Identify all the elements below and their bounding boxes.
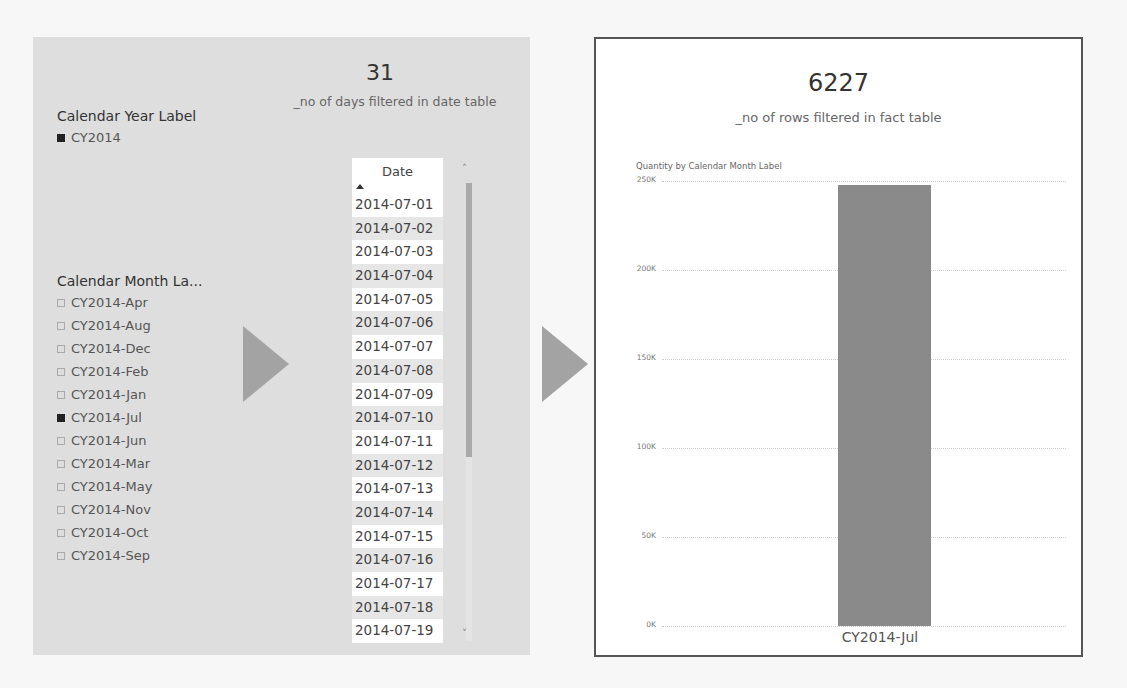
- year-slicer-title: Calendar Year Label: [57, 108, 196, 124]
- sort-ascending-icon[interactable]: [356, 184, 364, 189]
- checkbox-icon[interactable]: [57, 368, 65, 376]
- table-row[interactable]: 2014-07-05: [352, 288, 443, 312]
- table-row[interactable]: 2014-07-14: [352, 501, 443, 525]
- table-row[interactable]: 2014-07-12: [352, 454, 443, 478]
- scroll-up-icon[interactable]: ˄: [462, 163, 467, 174]
- result-panel: 6227 _no of rows filtered in fact table …: [594, 37, 1083, 657]
- table-row[interactable]: 2014-07-06: [352, 311, 443, 335]
- month-slicer-item-label: CY2014-Nov: [71, 502, 151, 517]
- bar-CY2014-Jul[interactable]: [838, 185, 931, 626]
- year-slicer-item[interactable]: CY2014: [57, 130, 121, 145]
- month-slicer-item[interactable]: CY2014-May: [57, 479, 152, 494]
- month-slicer-item-label: CY2014-May: [71, 479, 152, 494]
- rows-count-value: 6227: [596, 69, 1081, 97]
- gridline: [662, 626, 1066, 627]
- y-axis-tick-label: 100K: [626, 442, 656, 451]
- checkbox-icon[interactable]: [57, 299, 65, 307]
- table-row[interactable]: 2014-07-18: [352, 596, 443, 620]
- checkbox-icon[interactable]: [57, 460, 65, 468]
- checkbox-checked-icon[interactable]: [57, 134, 65, 142]
- month-slicer-item-label: CY2014-Oct: [71, 525, 148, 540]
- checkbox-icon[interactable]: [57, 322, 65, 330]
- month-slicer-item-label: CY2014-Jun: [71, 433, 147, 448]
- scroll-down-icon[interactable]: ˅: [462, 628, 467, 639]
- month-slicer-item-label: CY2014-Jul: [71, 410, 142, 425]
- table-row[interactable]: 2014-07-10: [352, 406, 443, 430]
- month-slicer-item-label: CY2014-Sep: [71, 548, 150, 563]
- month-slicer-item[interactable]: CY2014-Jan: [57, 387, 146, 402]
- checkbox-icon[interactable]: [57, 506, 65, 514]
- month-slicer-item-label: CY2014-Dec: [71, 341, 151, 356]
- days-count-value: 31: [330, 60, 430, 85]
- table-row[interactable]: 2014-07-04: [352, 264, 443, 288]
- month-slicer-item[interactable]: CY2014-Oct: [57, 525, 148, 540]
- table-row[interactable]: 2014-07-09: [352, 383, 443, 407]
- table-row[interactable]: 2014-07-02: [352, 217, 443, 241]
- checkbox-icon[interactable]: [57, 437, 65, 445]
- month-slicer-item[interactable]: CY2014-Jul: [57, 410, 142, 425]
- checkbox-icon[interactable]: [57, 391, 65, 399]
- table-row[interactable]: 2014-07-17: [352, 572, 443, 596]
- table-row[interactable]: 2014-07-03: [352, 240, 443, 264]
- checkbox-icon[interactable]: [57, 483, 65, 491]
- month-slicer-item[interactable]: CY2014-Nov: [57, 502, 151, 517]
- table-row[interactable]: 2014-07-13: [352, 477, 443, 501]
- date-table[interactable]: Date 2014-07-012014-07-022014-07-032014-…: [352, 158, 443, 643]
- y-axis-tick-label: 250K: [626, 175, 656, 184]
- checkbox-icon[interactable]: [57, 552, 65, 560]
- month-slicer-item-label: CY2014-Jan: [71, 387, 146, 402]
- month-slicer-item[interactable]: CY2014-Dec: [57, 341, 151, 356]
- month-slicer-item-label: CY2014-Apr: [71, 295, 148, 310]
- checkbox-icon[interactable]: [57, 345, 65, 353]
- month-slicer-item[interactable]: CY2014-Jun: [57, 433, 147, 448]
- table-row[interactable]: 2014-07-16: [352, 548, 443, 572]
- date-column-header-label: Date: [352, 164, 443, 179]
- month-slicer-item[interactable]: CY2014-Aug: [57, 318, 151, 333]
- days-count-label: _no of days filtered in date table: [270, 94, 520, 109]
- month-slicer-item[interactable]: CY2014-Mar: [57, 456, 150, 471]
- y-axis-tick-label: 200K: [626, 264, 656, 273]
- month-slicer-item-label: CY2014-Mar: [71, 456, 150, 471]
- month-slicer-title: Calendar Month La...: [57, 273, 202, 289]
- table-row[interactable]: 2014-07-07: [352, 335, 443, 359]
- checkbox-checked-icon[interactable]: [57, 414, 65, 422]
- month-slicer-item-label: CY2014-Aug: [71, 318, 151, 333]
- month-slicer-item[interactable]: CY2014-Apr: [57, 295, 148, 310]
- chart-title: Quantity by Calendar Month Label: [636, 161, 782, 171]
- gridline: [662, 181, 1066, 182]
- table-scrollbar[interactable]: [466, 183, 472, 641]
- scrollbar-thumb[interactable]: [466, 183, 472, 457]
- table-row[interactable]: 2014-07-11: [352, 430, 443, 454]
- table-row[interactable]: 2014-07-15: [352, 525, 443, 549]
- table-row[interactable]: 2014-07-19: [352, 619, 443, 643]
- y-axis-tick-label: 0K: [626, 620, 656, 629]
- rows-count-label: _no of rows filtered in fact table: [596, 110, 1081, 125]
- table-row[interactable]: 2014-07-08: [352, 359, 443, 383]
- x-axis-category-label: CY2014-Jul: [800, 629, 960, 645]
- arrow-right-icon: [243, 326, 289, 402]
- date-column-header[interactable]: Date: [352, 158, 443, 193]
- month-slicer-item-label: CY2014-Feb: [71, 364, 149, 379]
- table-row[interactable]: 2014-07-01: [352, 193, 443, 217]
- year-slicer-item-label: CY2014: [71, 130, 121, 145]
- y-axis-tick-label: 50K: [626, 531, 656, 540]
- arrow-right-icon: [542, 326, 588, 402]
- month-slicer-item[interactable]: CY2014-Feb: [57, 364, 149, 379]
- y-axis-tick-label: 150K: [626, 353, 656, 362]
- month-slicer-item[interactable]: CY2014-Sep: [57, 548, 150, 563]
- checkbox-icon[interactable]: [57, 529, 65, 537]
